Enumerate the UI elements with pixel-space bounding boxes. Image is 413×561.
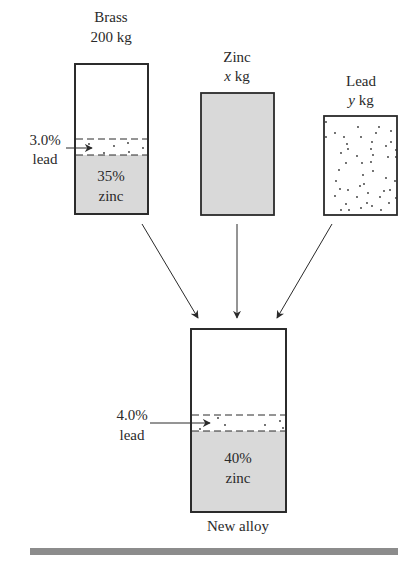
- new-alloy-title: New alloy: [207, 518, 270, 534]
- brass-lead-name: lead: [33, 151, 58, 167]
- zinc-quantity-unit: kg: [235, 68, 251, 84]
- lead-to-alloy-arrow-icon: [277, 224, 332, 318]
- brass-lead-pct: 3.0%: [29, 132, 60, 148]
- zinc-source: Zinc x kg: [201, 49, 274, 215]
- mixture-diagram: Brass 200 kg 35% zinc 3.0% lead Zinc x k…: [0, 0, 413, 561]
- brass-to-alloy-arrow-icon: [142, 224, 198, 318]
- zinc-container: [201, 93, 274, 215]
- lead-source: Lead y kg: [324, 73, 397, 215]
- new-alloy-zinc-pct: 40%: [224, 450, 252, 466]
- lead-title: Lead: [346, 73, 376, 89]
- bottom-divider: [30, 548, 398, 555]
- brass-title: Brass: [94, 9, 127, 25]
- zinc-title: Zinc: [223, 49, 251, 65]
- new-alloy-zinc-name: zinc: [226, 470, 251, 486]
- zinc-quantity: x kg: [223, 68, 250, 84]
- brass-quantity-unit: kg: [117, 29, 133, 45]
- brass-source: Brass 200 kg 35% zinc 3.0% lead: [29, 9, 148, 214]
- lead-quantity-value: y: [346, 92, 355, 108]
- brass-zinc-name: zinc: [99, 188, 124, 204]
- brass-zinc-pct: 35%: [97, 168, 125, 184]
- brass-quantity: 200 kg: [90, 29, 132, 45]
- new-alloy-lead-pct: 4.0%: [116, 407, 147, 423]
- lead-quantity-unit: kg: [359, 92, 375, 108]
- lead-quantity: y kg: [346, 92, 374, 108]
- lead-container: [324, 116, 397, 215]
- brass-quantity-value: 200: [90, 29, 113, 45]
- brass-zinc-region: [76, 155, 147, 213]
- zinc-quantity-value: x: [223, 68, 231, 84]
- new-alloy-lead-name: lead: [120, 427, 145, 443]
- flow-arrows: [142, 224, 332, 318]
- new-alloy-result: 40% zinc 4.0% lead New alloy: [116, 329, 286, 534]
